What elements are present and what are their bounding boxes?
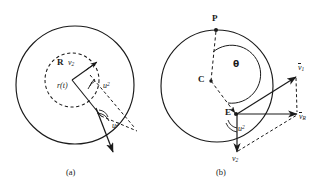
- panel-b-graphics: [160, 0, 320, 191]
- label-u-squared-upper: u2: [103, 82, 110, 90]
- label-point-c: C: [198, 75, 205, 84]
- panel-b: P C E θ v1 vR v2 u2 (b): [160, 0, 320, 191]
- caption-panel-a: (a): [66, 168, 75, 177]
- radius-c-to-p-dashed: [211, 31, 216, 81]
- label-vector-v2: v2: [232, 155, 238, 164]
- panel-a: R v2 r(t) u2 u2 (a): [0, 0, 160, 191]
- v2-arrow: [86, 62, 97, 70]
- caption-panel-b: (b): [216, 168, 226, 177]
- point-p-marker: [214, 28, 218, 32]
- label-v2-inner: v2: [68, 59, 74, 68]
- label-u-squared-b: u2: [238, 125, 245, 133]
- angle-arc-u-squared: [228, 120, 237, 128]
- label-angle-theta: θ: [233, 60, 239, 69]
- radius-c-to-e-dashed: [211, 81, 235, 113]
- parallelogram-side-right: [296, 78, 297, 112]
- vector-v1: [237, 77, 296, 114]
- dashed-reference-line: [90, 75, 134, 127]
- label-rt: r(t): [57, 82, 68, 90]
- panel-a-graphics: [0, 0, 160, 191]
- label-point-e: E: [225, 108, 231, 117]
- label-u-squared-lower: u2: [112, 122, 119, 130]
- orbit-circle: [161, 30, 273, 142]
- angle-theta-arc: [213, 45, 261, 103]
- label-vector-vr: vR: [299, 113, 306, 122]
- label-radius-R: R: [57, 58, 64, 67]
- velocity-arrow-main: [96, 108, 113, 152]
- label-point-p: P: [212, 14, 218, 23]
- label-vector-v1: v1: [298, 64, 304, 73]
- figure-root: R v2 r(t) u2 u2 (a): [0, 0, 320, 191]
